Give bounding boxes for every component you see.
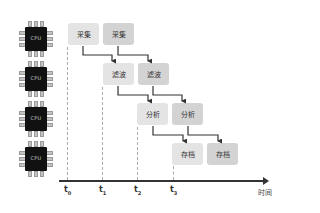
time-axis-label: 时间 <box>258 187 272 197</box>
tick-t3: t3 <box>170 185 177 196</box>
tick-t2: t2 <box>134 185 141 196</box>
tick-t0: t0 <box>64 185 71 196</box>
axis-arrow-icon <box>263 177 269 185</box>
tick-t1: t1 <box>99 185 106 196</box>
time-axis <box>59 180 264 182</box>
